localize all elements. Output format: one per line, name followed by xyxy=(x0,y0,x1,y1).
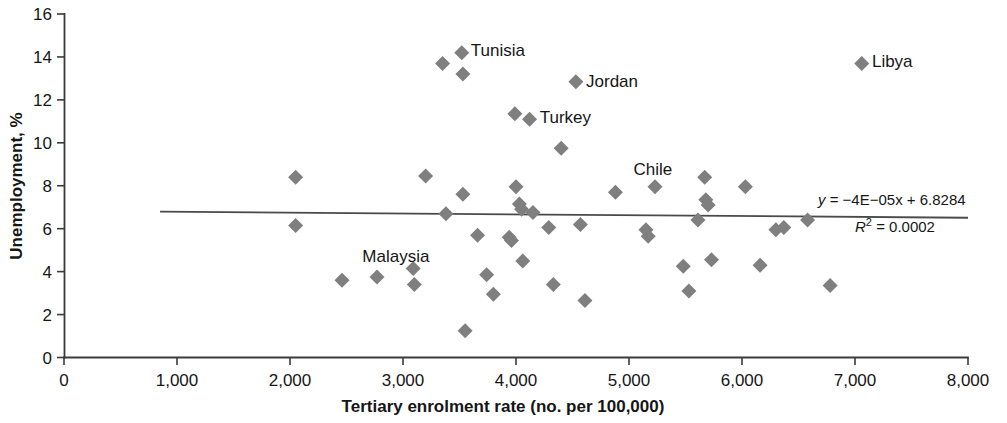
x-tick-label: 5,000 xyxy=(608,371,651,390)
data-point-marker xyxy=(738,179,753,194)
data-point-marker xyxy=(546,277,561,292)
data-point-markers xyxy=(288,45,869,338)
x-tick-label: 3,000 xyxy=(382,371,425,390)
y-tick-label: 12 xyxy=(33,91,52,110)
data-point-marker xyxy=(573,217,588,232)
x-axis-tick-labels: 01,0002,0003,0004,0005,0006,0007,0008,00… xyxy=(59,371,989,390)
data-point-marker xyxy=(525,205,540,220)
data-point-marker xyxy=(479,267,494,282)
y-tick-label: 0 xyxy=(43,349,52,368)
y-tick-label: 6 xyxy=(43,220,52,239)
x-tick-label: 0 xyxy=(59,371,68,390)
data-point-marker xyxy=(515,253,530,268)
data-point-marker xyxy=(486,287,501,302)
y-tick-label: 10 xyxy=(33,134,52,153)
x-tick-label: 1,000 xyxy=(156,371,199,390)
data-point-marker xyxy=(554,141,569,156)
data-point-marker xyxy=(407,277,422,292)
data-point-marker xyxy=(681,283,696,298)
scatter-chart-figure: 0246810121416 01,0002,0003,0004,0005,000… xyxy=(0,0,1007,423)
data-point-marker xyxy=(470,228,485,243)
data-point-marker xyxy=(608,185,623,200)
data-point-marker xyxy=(704,252,719,267)
trend-line xyxy=(160,212,968,218)
chart-canvas: 0246810121416 01,0002,0003,0004,0005,000… xyxy=(0,0,1007,423)
data-point-marker xyxy=(418,169,433,184)
data-point-marker xyxy=(522,112,537,127)
data-point-marker xyxy=(288,170,303,185)
y-axis-ticks xyxy=(57,14,65,358)
r-squared-value: = 0.0002 xyxy=(872,218,935,235)
trendline-equation: y = −4E−05x + 6.8284 xyxy=(817,191,966,208)
data-point-marker xyxy=(435,56,450,71)
trendline-r-squared: R2 = 0.0002 xyxy=(855,216,935,235)
data-point-marker xyxy=(370,269,385,284)
equation-body: = −4E−05x + 6.8284 xyxy=(826,191,966,208)
data-point-marker xyxy=(438,206,453,221)
data-point-marker xyxy=(455,187,470,202)
data-point-marker xyxy=(288,218,303,233)
jordan-label: Jordan xyxy=(586,72,638,91)
y-tick-label: 16 xyxy=(33,5,52,24)
y-tick-label: 14 xyxy=(33,48,52,67)
r-symbol: R xyxy=(855,218,866,235)
data-point-marker xyxy=(455,67,470,82)
x-tick-label: 6,000 xyxy=(721,371,764,390)
data-point-marker xyxy=(577,293,592,308)
x-tick-label: 4,000 xyxy=(495,371,538,390)
tunisia-label: Tunisia xyxy=(471,41,526,60)
data-point-marker xyxy=(509,179,524,194)
turkey-label: Turkey xyxy=(540,108,592,127)
data-point-marker xyxy=(334,273,349,288)
data-point-marker xyxy=(800,213,815,228)
y-tick-label: 8 xyxy=(43,177,52,196)
x-tick-label: 2,000 xyxy=(269,371,312,390)
x-tick-label: 8,000 xyxy=(947,371,990,390)
chile-label: Chile xyxy=(634,160,673,179)
y-tick-label: 2 xyxy=(43,306,52,325)
y-tick-label: 4 xyxy=(43,263,52,282)
data-point-marker xyxy=(454,45,469,60)
x-axis-ticks xyxy=(64,358,968,366)
y-axis-title: Unemployment, % xyxy=(7,112,26,259)
data-point-marker xyxy=(823,278,838,293)
libya-label: Libya xyxy=(872,52,913,71)
x-axis-title: Tertiary enrolment rate (no. per 100,000… xyxy=(342,397,665,416)
point-annotations: TunisiaJordanTurkeyChileLibyaMalaysia xyxy=(362,41,913,265)
data-point-marker xyxy=(647,179,662,194)
data-point-marker xyxy=(854,56,869,71)
data-point-marker xyxy=(507,106,522,121)
data-point-marker xyxy=(458,323,473,338)
data-point-marker xyxy=(568,74,583,89)
data-point-marker xyxy=(753,258,768,273)
malaysia-label: Malaysia xyxy=(362,247,430,266)
data-point-marker xyxy=(541,220,556,235)
x-tick-label: 7,000 xyxy=(834,371,877,390)
data-point-marker xyxy=(676,259,691,274)
data-point-marker xyxy=(697,170,712,185)
y-axis-tick-labels: 0246810121416 xyxy=(33,5,52,368)
